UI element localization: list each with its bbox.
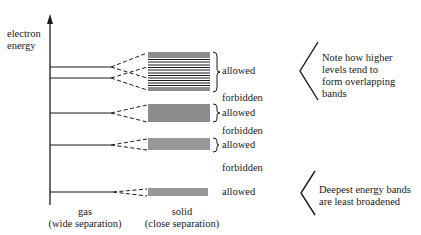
gas-title: gas bbox=[45, 206, 125, 218]
axis-arrow-icon bbox=[47, 14, 53, 24]
band-label-forbidden-3: forbidden bbox=[222, 162, 263, 174]
gas-levels bbox=[50, 67, 113, 192]
band-label-allowed-3: allowed bbox=[222, 139, 255, 151]
band-label-allowed-2: allowed bbox=[222, 107, 255, 119]
solid-label: solid (close separation) bbox=[142, 206, 222, 230]
solid-band-3 bbox=[148, 139, 210, 149]
solid-subtitle: (close separation) bbox=[142, 218, 222, 230]
axis-label-line2: energy bbox=[7, 40, 41, 52]
axis-label-line1: electron bbox=[7, 28, 41, 40]
gas-label: gas (wide separation) bbox=[45, 206, 125, 230]
energy-axis bbox=[47, 14, 53, 205]
broadening-dashes bbox=[111, 53, 147, 196]
brace-band-1-icon bbox=[213, 52, 220, 92]
band-label-allowed-4: allowed bbox=[222, 186, 255, 198]
note-bottom-pointer-icon bbox=[301, 171, 315, 215]
note-top-pointer-icon bbox=[300, 42, 318, 100]
note-top: Note how higher levels tend to form over… bbox=[322, 52, 396, 100]
note-bottom: Deepest energy bands are least broadened bbox=[319, 184, 419, 208]
brace-icons bbox=[213, 52, 220, 152]
solid-title: solid bbox=[142, 206, 222, 218]
band-label-forbidden-2: forbidden bbox=[222, 125, 263, 137]
band-label-allowed-1: allowed bbox=[222, 65, 255, 77]
brace-band-2-icon bbox=[213, 104, 220, 122]
brace-band-3-icon bbox=[213, 138, 219, 152]
axis-label: electron energy bbox=[7, 28, 41, 52]
band-label-forbidden-1: forbidden bbox=[222, 92, 263, 104]
solid-band-4 bbox=[148, 189, 208, 195]
solid-band-1 bbox=[148, 53, 210, 90]
solid-band-2 bbox=[148, 105, 210, 121]
gas-subtitle: (wide separation) bbox=[45, 218, 125, 230]
